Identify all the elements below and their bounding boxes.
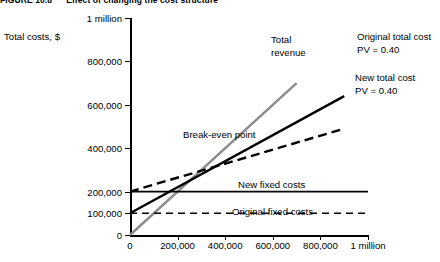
y-tick-label: 400,000 [87, 143, 122, 154]
annotation-original-fixed-costs: Original fixed costs [232, 206, 313, 219]
y-tick-label: 800,000 [87, 56, 122, 67]
annotation-break-even-point: Break-even point [183, 129, 256, 142]
figure-root: FIGURE 10.8Effect of changing the cost s… [0, 0, 440, 262]
y-axis-title: Total costs, $ [4, 31, 60, 42]
y-tick-label: 100,000 [87, 208, 122, 219]
figure-title-strip: FIGURE 10.8Effect of changing the cost s… [0, 0, 440, 7]
plot-area: 0100,000200,000400,000600,000800,0001 mi… [130, 18, 368, 237]
x-tick-label: 1 million [350, 240, 385, 251]
x-tick-label: 200,000 [160, 240, 195, 251]
annotation-new-total-cost: New total cost PV = 0.40 [355, 72, 415, 97]
x-tick-label: 600,000 [255, 240, 290, 251]
y-tick-label: 600,000 [87, 99, 122, 110]
y-tick-label: 1 million [87, 13, 122, 24]
annotation-total-revenue: Total revenue [271, 34, 306, 59]
annotation-new-fixed-costs: New fixed costs [238, 179, 305, 192]
chart-data-layer [130, 18, 368, 237]
y-tick-label: 0 [117, 230, 122, 241]
x-tick-label: 400,000 [208, 240, 243, 251]
annotation-original-total-cost: Original total cost PV = 0.40 [357, 31, 431, 56]
x-tick-label: 0 [127, 240, 132, 251]
y-tick-label: 200,000 [87, 186, 122, 197]
annotation-original-total-cost-line1: Original total cost [357, 31, 431, 42]
figure-caption: Effect of changing the cost structure [66, 0, 218, 5]
series-line [130, 96, 344, 213]
annotation-original-total-cost-line2: PV = 0.40 [357, 44, 399, 55]
x-tick-label: 800,000 [303, 240, 338, 251]
annotation-new-total-cost-line2: PV = 0.40 [355, 85, 397, 96]
figure-title: FIGURE 10.8Effect of changing the cost s… [0, 0, 218, 5]
annotation-total-revenue-line1: Total [271, 34, 291, 45]
annotation-total-revenue-line2: revenue [271, 47, 306, 58]
annotation-new-total-cost-line1: New total cost [355, 72, 415, 83]
figure-number: FIGURE 10.8 [0, 0, 52, 5]
